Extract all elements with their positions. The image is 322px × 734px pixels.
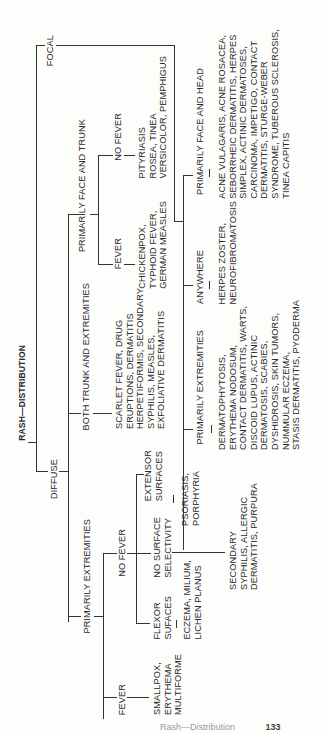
ft-nofever-label: NO FEVER <box>113 113 124 161</box>
pe-nofever-connector-2 <box>127 553 151 554</box>
face-head-tick <box>209 169 210 177</box>
focal-vertical <box>174 45 175 221</box>
ft-fever-label: FEVER <box>113 238 124 269</box>
ft-fever-connector-2 <box>124 264 135 265</box>
anywhere-label: ANYWHERE <box>195 250 206 304</box>
pe-fever-label: FEVER <box>117 684 128 715</box>
pe-fever-conditions: SMALLPOX, ERYTHEMA MULTIFORME <box>152 654 184 715</box>
face-head-label: PRIMARILY FACE AND HEAD <box>195 68 206 195</box>
anywhere-connector <box>183 285 193 286</box>
face-trunk-vertical <box>98 155 99 265</box>
extensor-label: EXTENSOR SURFACES <box>143 450 164 501</box>
diffuse-extremities-label: PRIMARILY EXTREMITIES <box>82 519 93 634</box>
extensor-tick <box>173 495 174 503</box>
focal-extremities-tick <box>211 425 212 433</box>
running-title: Rash—Distribution <box>160 722 235 732</box>
face-trunk-label: PRIMARILY FACE AND TRUNK <box>77 119 88 252</box>
main-trunk-line <box>36 45 37 472</box>
focal-extremities-conditions: DERMATOPHYTOSIS, ERYTHEMA NODOSUM, CONTA… <box>217 300 302 450</box>
page-number: 133 <box>266 722 281 732</box>
focal-extremities-label: PRIMARILY EXTREMITIES <box>195 330 206 445</box>
selectivity-to-syphilis-connector <box>172 552 225 553</box>
anywhere-conditions: HERPES ZOSTER, NEUROFIBROMATOSIS <box>217 201 238 304</box>
diffuse-label: DIFFUSE <box>49 459 60 499</box>
pe-nofever-label: NO FEVER <box>117 529 128 577</box>
both-connector-2 <box>93 413 112 414</box>
decision-tree-page: RASH—DISTRIBUTION FOCAL DIFFUSE PRIMARIL… <box>0 0 322 734</box>
flexor-connector <box>136 623 150 624</box>
root-label: RASH—DISTRIBUTION <box>17 345 28 441</box>
no-selectivity-conditions: SECONDARY SYPHILIS, ALLERGIC DERMATITIS,… <box>228 483 260 590</box>
diffuse-connector <box>36 471 48 472</box>
ft-fever-connector <box>98 264 113 265</box>
ft-nofever-connector <box>98 155 113 156</box>
focal-connector-2 <box>56 45 175 46</box>
both-conditions: SCARLET FEVER, DRUG ERUPTIONS, DERMATITI… <box>114 288 167 429</box>
face-head-connector <box>183 175 193 176</box>
flexor-tick <box>176 620 177 628</box>
pe-connector <box>68 616 81 617</box>
anywhere-tick <box>209 281 210 289</box>
pe-nofever-connector <box>103 553 117 554</box>
both-connector <box>68 413 81 414</box>
focal-link <box>174 221 184 222</box>
face-head-conditions: ACNE VULAGARIS, ACNE ROSACEA, SEBORRHEIC… <box>217 29 291 199</box>
pe-vertical <box>103 553 104 719</box>
focal-connector <box>36 45 45 46</box>
pe-fever-connector <box>103 697 117 698</box>
focal-extremities-connector <box>183 429 193 430</box>
ft-fever-conditions: CHICKENPOX, TYPHOID FEVER, GERMAN MEASLE… <box>137 201 169 289</box>
diffuse-vertical <box>68 214 69 622</box>
flexor-label: FLEXOR SUFACES <box>152 596 173 640</box>
pe-fever-connector-2 <box>127 697 149 698</box>
extensor-conditions: PSORIASIS, PORPHYRIA <box>180 471 201 526</box>
flexor-conditions: ECZEMA, MILIUM, LICHEN PLANUS <box>182 560 203 640</box>
focal-label: FOCAL <box>45 35 56 66</box>
ft-nofever-conditions: PITYRIASIS ROSEA, TINEA VERSICOLOR, PEMP… <box>137 56 169 179</box>
no-selectivity-label: NO SURFACE SELECTIVITY <box>152 517 173 578</box>
page-footer: Rash—Distribution 133 <box>160 722 281 732</box>
ft-nofever-connector-2 <box>124 155 135 156</box>
both-trunk-extremities-label: BOTH TRUNK AND EXTREMITIES <box>81 283 92 430</box>
nofever-vertical <box>136 474 137 624</box>
